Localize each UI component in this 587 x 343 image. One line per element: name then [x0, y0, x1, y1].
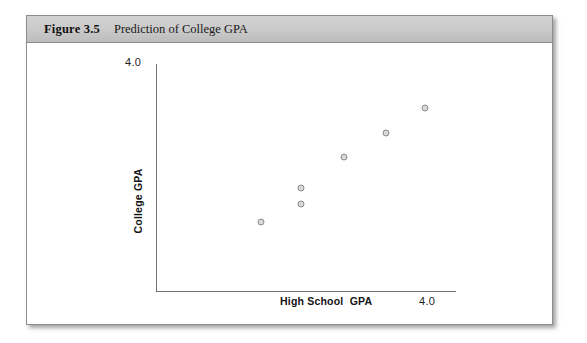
figure-caption-band: Figure 3.5 Prediction of College GPA — [27, 16, 552, 43]
x-axis-max-tick-label: 4.0 — [419, 295, 435, 307]
scatter-point — [382, 129, 389, 136]
x-axis-title: High School GPA — [280, 295, 372, 307]
scatter-point — [341, 154, 348, 161]
scatter-plot-area: 4.0 4.0 College GPA High School GPA — [27, 43, 552, 324]
scatter-point — [297, 201, 304, 208]
scatter-point — [422, 105, 429, 112]
y-axis-title: College GPA — [132, 168, 144, 233]
figure-title: Prediction of College GPA — [114, 22, 248, 37]
x-axis-line — [156, 291, 456, 292]
scatter-point — [297, 185, 304, 192]
scatter-point — [258, 218, 265, 225]
figure-number-label: Figure 3.5 — [44, 22, 100, 37]
figure-box: Figure 3.5 Prediction of College GPA 4.0… — [26, 15, 553, 325]
y-axis-line — [156, 64, 157, 292]
y-axis-max-tick-label: 4.0 — [125, 56, 141, 68]
